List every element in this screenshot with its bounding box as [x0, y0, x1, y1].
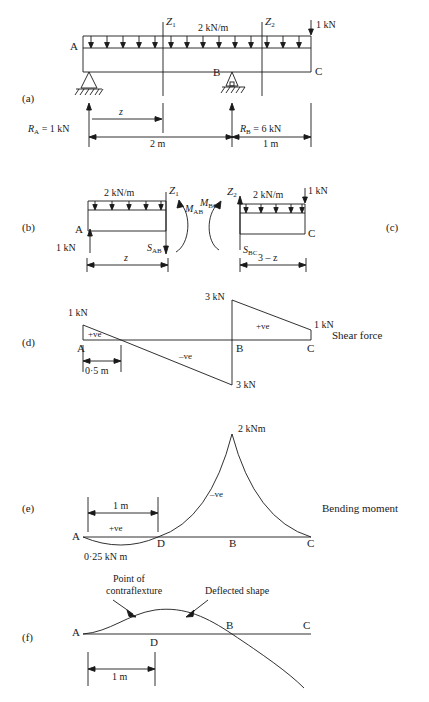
panel-b-left-cut-label: Z1: [169, 185, 179, 198]
panel-b-point-load-arrow: [303, 188, 308, 203]
panel-a-point-c-label: C: [315, 66, 322, 77]
beam-analysis-figure: (a) (b) (c) (d) (e) (f) A C B Z1 Z2 2 kN…: [0, 0, 429, 702]
panel-e-peak-label: 2 kNm: [238, 424, 266, 434]
panel-f-point-a-label: A: [72, 627, 80, 638]
panel-a-beam: [83, 36, 311, 72]
panel-a-reaction-b-label: RB = 6 kN: [240, 124, 281, 136]
panel-f-point-d-label: D: [150, 637, 158, 648]
panel-a-dim-z: [92, 117, 162, 122]
panel-e-sign-positive: +ve: [109, 524, 123, 533]
panel-b-moment-bc-label: MBC: [200, 198, 218, 210]
panel-label-f: (f): [22, 632, 33, 643]
panel-b-left-udl-arrows: [93, 201, 163, 210]
panel-d-value-below-b-label: 3 kN: [236, 380, 256, 390]
panel-e-caption: Bending moment: [322, 503, 398, 514]
panel-d-point-a-label: A: [77, 343, 85, 354]
panel-d-sign-positive-left: +ve: [88, 330, 102, 339]
panel-f-contraflexure-leader: [113, 600, 136, 617]
panel-b-left-udl-label: 2 kN/m: [104, 188, 134, 198]
panel-d-value-c-label: 1 kN: [314, 320, 334, 330]
panel-a-reaction-a-label: RA = 1 kN: [28, 124, 70, 136]
panel-b-shear-bc-label: SBC: [243, 245, 257, 257]
panel-b-right-udl-arrows: [244, 204, 304, 213]
panel-f-deflected-shape-label: Deflected shape: [205, 586, 269, 596]
panel-d-shear-curve: [83, 300, 311, 385]
panel-label-a: (a): [22, 93, 34, 104]
panel-f-dim-label: 1 m: [112, 672, 127, 682]
panel-label-d: (d): [22, 337, 35, 348]
panel-a-point-b-label: B: [213, 67, 220, 78]
panel-a-section-z1-label: Z1: [166, 16, 176, 29]
panel-a-section-z2-label: Z2: [265, 16, 275, 29]
panel-d-sign-negative: –ve: [179, 352, 192, 361]
panel-e-sag-value-label: 0·25 kN m: [84, 552, 127, 562]
panel-b-right-cut-label: Z2: [227, 186, 237, 199]
panel-a-dim-1m-label: 1 m: [263, 139, 278, 149]
panel-label-e: (e): [22, 503, 34, 514]
panel-d-sign-positive-right: +ve: [256, 322, 270, 331]
panel-b-reaction-arrow: [88, 229, 93, 253]
panel-b-left-reaction-label: 1 kN: [56, 243, 76, 253]
panel-label-b: (b): [22, 222, 35, 233]
panel-f-contraflexure-label-line2: contraflexture: [106, 586, 162, 596]
panel-a-point-load-label: 1 kN: [316, 20, 336, 30]
panel-label-c: (c): [386, 222, 398, 233]
panel-e-point-d-label: D: [157, 538, 165, 549]
panel-b-right-point-load-label: 1 kN: [308, 186, 328, 196]
panel-a-point-load-arrow: [309, 20, 314, 35]
panel-d-point-c-label: C: [307, 343, 314, 354]
panel-e-dim-label: 1 m: [113, 501, 128, 511]
panel-a-dim-2m-label: 2 m: [150, 139, 165, 149]
panel-b-right-udl-label: 2 kN/m: [253, 190, 283, 200]
panel-a-support-b: [221, 72, 245, 93]
panel-b-left-point-a-label: A: [75, 224, 83, 235]
panel-a-support-a: [75, 72, 103, 95]
panel-f-contraflexure-label-line1: Point of: [113, 574, 145, 584]
panel-b-right-beam: [240, 204, 305, 234]
panel-e-point-c-label: C: [307, 538, 314, 549]
panel-b-shear-ab-label: SAB: [147, 243, 162, 255]
panel-a-udl-arrows: [89, 36, 302, 48]
panel-a-dim-z-label: z: [119, 107, 123, 117]
panel-f-point-c-label: C: [303, 620, 310, 631]
panel-b-right-dim-label: 3 – z: [258, 253, 277, 263]
panel-b-left-dim-label: z: [124, 253, 128, 263]
figure-linework: [0, 0, 429, 702]
panel-d-value-above-b-label: 3 kN: [205, 292, 225, 302]
panel-d-caption: Shear force: [332, 330, 382, 341]
panel-d-dim-label: 0·5 m: [85, 366, 109, 376]
panel-a-point-a-label: A: [70, 41, 78, 52]
panel-f-deflected-leader: [186, 600, 208, 617]
panel-f-point-b-label: B: [226, 620, 233, 631]
panel-b-shear-bc-arrow: [238, 196, 243, 250]
panel-b-right-point-c-label: C: [308, 228, 315, 239]
panel-e-point-b-label: B: [229, 538, 236, 549]
panel-a-udl-label: 2 kN/m: [198, 23, 228, 33]
panel-d-point-b-label: B: [236, 343, 243, 354]
panel-d-value-a-label: 1 kN: [68, 308, 88, 318]
panel-e-point-a-label: A: [72, 531, 80, 542]
panel-e-sign-negative: –ve: [210, 490, 223, 499]
